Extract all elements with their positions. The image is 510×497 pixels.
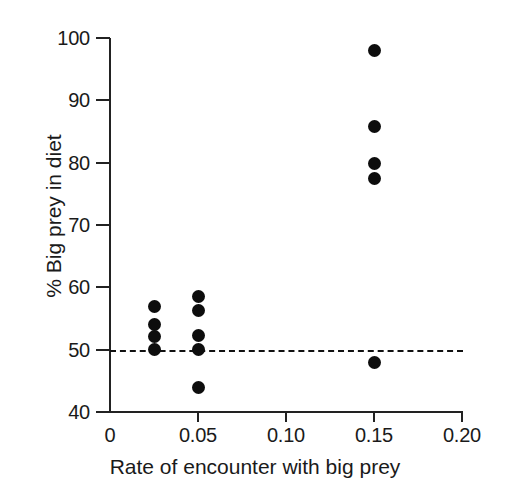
data-point <box>148 318 161 331</box>
y-tick-80 <box>96 162 110 164</box>
data-point <box>148 300 161 313</box>
y-tick-40 <box>96 411 110 413</box>
y-tick-label-40: 40 <box>20 402 90 422</box>
scatter-plot-figure: 405060708090100 00.050.100.150.20 % Big … <box>0 0 510 497</box>
y-tick-60 <box>96 286 110 288</box>
y-tick-90 <box>96 99 110 101</box>
data-point <box>368 157 381 170</box>
x-tick-label-0.15: 0.15 <box>329 424 419 446</box>
y-tick-50 <box>96 349 110 351</box>
data-point <box>368 120 381 133</box>
x-tick-0.10 <box>285 411 287 422</box>
data-point <box>368 356 381 369</box>
x-axis-title: Rate of encounter with big prey <box>0 455 510 478</box>
data-point <box>368 44 381 57</box>
x-tick-0.20 <box>461 411 463 422</box>
x-tick-label-0: 0 <box>65 424 155 446</box>
y-axis-title: % Big prey in diet <box>43 36 65 396</box>
data-point <box>148 343 161 356</box>
data-point <box>192 290 205 303</box>
data-point <box>368 172 381 185</box>
data-point <box>192 329 205 342</box>
x-tick-0.05 <box>197 411 199 422</box>
x-tick-label-0.05: 0.05 <box>153 424 243 446</box>
x-tick-0.15 <box>373 411 375 422</box>
data-point <box>148 330 161 343</box>
y-tick-70 <box>96 224 110 226</box>
data-point <box>192 343 205 356</box>
x-tick-label-0.20: 0.20 <box>417 424 507 446</box>
data-point <box>192 381 205 394</box>
y-tick-100 <box>96 37 110 39</box>
plot-area <box>110 38 462 412</box>
data-point <box>192 304 205 317</box>
x-tick-label-0.10: 0.10 <box>241 424 331 446</box>
